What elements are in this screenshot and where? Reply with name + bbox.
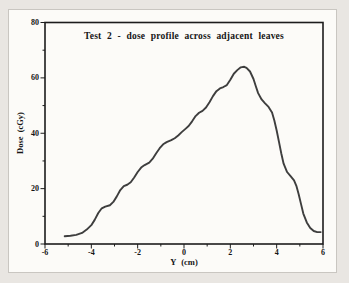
x-tick-label: 4 <box>265 248 289 257</box>
x-tick-label: 0 <box>172 248 196 257</box>
x-tick-label: -2 <box>126 248 150 257</box>
x-tick-label: 2 <box>218 248 242 257</box>
plot-area <box>0 0 349 283</box>
dose-profile-curve <box>65 67 321 236</box>
plot-border <box>45 23 323 245</box>
x-tick-label: 6 <box>311 248 335 257</box>
y-tick-label: 60 <box>9 73 39 82</box>
x-tick-label: -6 <box>33 248 57 257</box>
chart-title: Test 2 - dose profile across adjacent le… <box>45 31 323 41</box>
y-tick-label: 40 <box>9 129 39 138</box>
y-tick-label: 20 <box>9 184 39 193</box>
x-tick-label: -4 <box>79 248 103 257</box>
screenshot-root: Test 2 - dose profile across adjacent le… <box>0 0 349 283</box>
y-tick-label: 80 <box>9 18 39 27</box>
x-axis-label: Y (cm) <box>45 257 323 267</box>
